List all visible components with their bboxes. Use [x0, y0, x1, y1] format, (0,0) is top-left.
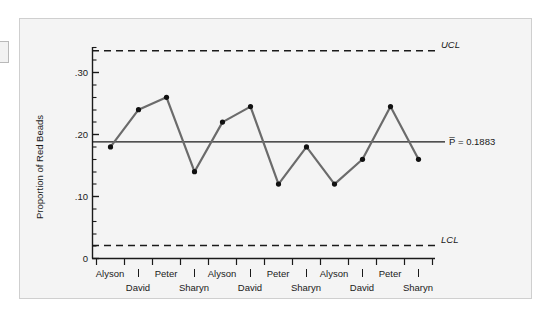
x-label-peter-3: Peter: [379, 268, 402, 279]
x-label-peter-2: Peter: [267, 268, 290, 279]
x-label-sharyn-3: Sharyn: [403, 282, 433, 293]
data-point: [192, 169, 197, 174]
data-point: [304, 144, 309, 149]
p-chart-plot: Proportion of Red Beads .30 .20 .10 0: [20, 19, 533, 300]
x-label-alyson-3: Alyson: [320, 268, 349, 279]
data-point: [388, 104, 393, 109]
data-point: [360, 157, 365, 162]
data-series-line: [111, 97, 419, 184]
data-point: [276, 182, 281, 187]
data-point-markers: [108, 95, 421, 187]
y-tick-label-10: .10: [75, 191, 88, 202]
x-label-alyson-1: Alyson: [96, 268, 125, 279]
y-tick-label-20: .20: [75, 129, 88, 140]
data-point: [164, 95, 169, 100]
screenshot-root: Proportion of Red Beads .30 .20 .10 0: [0, 0, 551, 316]
x-label-david-3: David: [350, 282, 374, 293]
y-axis-title: Proportion of Red Beads: [34, 115, 45, 219]
y-major-ticks: [93, 73, 100, 259]
x-ticks: [97, 259, 433, 266]
x-label-sharyn-1: Sharyn: [179, 282, 209, 293]
data-point: [416, 157, 421, 162]
left-edge-marker: [0, 41, 9, 63]
y-tick-label-0: 0: [83, 253, 88, 264]
data-point: [108, 144, 113, 149]
y-tick-label-30: .30: [75, 67, 88, 78]
x-label-sharyn-2: Sharyn: [291, 282, 321, 293]
x-label-david-1: David: [126, 282, 150, 293]
data-point: [248, 104, 253, 109]
x-label-alyson-2: Alyson: [208, 268, 237, 279]
data-point: [220, 120, 225, 125]
control-chart-figure: Proportion of Red Beads .30 .20 .10 0: [19, 18, 532, 299]
ucl-label: UCL: [441, 39, 460, 50]
x-label-david-2: David: [238, 282, 262, 293]
center-line-label: P̅ = 0.1883: [449, 136, 495, 147]
lcl-label: LCL: [441, 234, 458, 245]
data-point: [136, 107, 141, 112]
x-label-peter-1: Peter: [155, 268, 178, 279]
data-point: [332, 182, 337, 187]
